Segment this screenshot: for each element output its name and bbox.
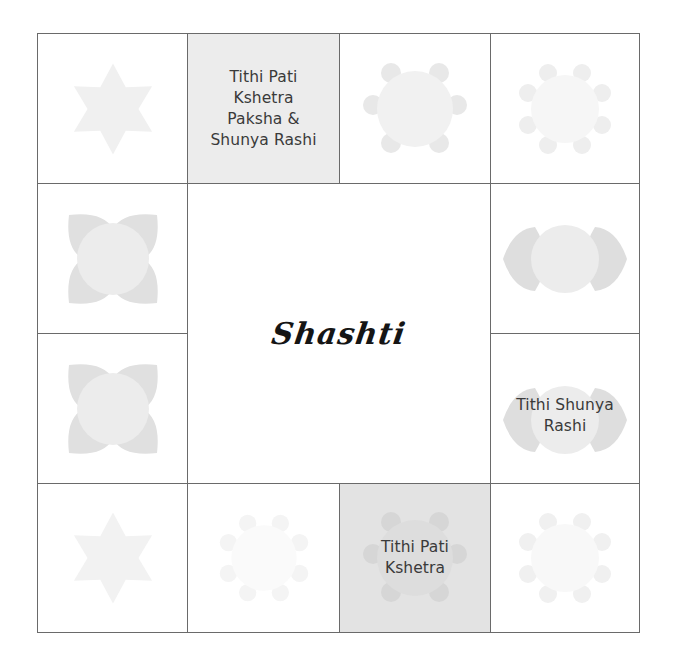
house-cell-r3c1 bbox=[37, 333, 188, 484]
house-label: Tithi Pati Kshetra bbox=[377, 537, 453, 579]
house-cell-r1c4 bbox=[490, 33, 640, 184]
four-petal-lotus-icon bbox=[67, 363, 159, 455]
six-point-star-icon bbox=[67, 508, 159, 608]
label-line: Kshetra bbox=[381, 558, 449, 579]
four-petal-lotus-icon bbox=[67, 213, 159, 305]
house-cell-r1c3 bbox=[339, 33, 491, 184]
house-cell-r4c1 bbox=[37, 483, 188, 633]
two-petal-lotus-icon bbox=[501, 223, 629, 295]
center-title-cell: Shashti bbox=[187, 183, 491, 484]
six-point-star-icon bbox=[67, 59, 159, 159]
house-cell-r2c4 bbox=[490, 183, 640, 334]
house-label: Tithi Shunya Rashi bbox=[512, 395, 618, 437]
house-cell-r3c4: Tithi Shunya Rashi bbox=[490, 333, 640, 484]
label-line: Paksha & bbox=[210, 109, 316, 130]
label-line: Tithi Pati bbox=[381, 537, 449, 558]
ten-petal-rosette-icon bbox=[513, 506, 617, 610]
ten-petal-rosette-icon bbox=[513, 57, 617, 161]
ten-petal-rosette-icon bbox=[214, 508, 314, 608]
label-line: Tithi Shunya bbox=[516, 395, 614, 416]
south-indian-chart-grid: Tithi Pati Kshetra Paksha & Shunya Rashi bbox=[37, 33, 640, 633]
label-line: Tithi Pati bbox=[210, 67, 316, 88]
label-line: Rashi bbox=[516, 416, 614, 437]
label-line: Kshetra bbox=[210, 88, 316, 109]
house-cell-r4c2 bbox=[187, 483, 340, 633]
house-cell-r4c3: Tithi Pati Kshetra bbox=[339, 483, 491, 633]
house-cell-r1c1 bbox=[37, 33, 188, 184]
house-cell-r1c2: Tithi Pati Kshetra Paksha & Shunya Rashi bbox=[187, 33, 340, 184]
house-cell-r4c4 bbox=[490, 483, 640, 633]
eight-petal-lotus-icon bbox=[360, 59, 470, 159]
chart-title: Shashti bbox=[270, 316, 409, 351]
house-cell-r2c1 bbox=[37, 183, 188, 334]
house-label: Tithi Pati Kshetra Paksha & Shunya Rashi bbox=[206, 67, 320, 151]
label-line: Shunya Rashi bbox=[210, 130, 316, 151]
